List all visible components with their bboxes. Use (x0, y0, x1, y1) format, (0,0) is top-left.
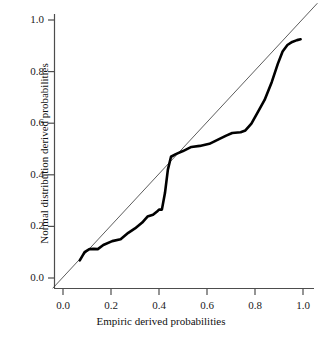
x-tick-label: 0.0 (43, 300, 83, 311)
x-tick-label: 0.6 (187, 300, 227, 311)
x-axis-title: Empiric derived probabilities (0, 316, 322, 327)
x-tick-label: 1.0 (283, 300, 322, 311)
x-tick-label: 0.2 (91, 300, 131, 311)
x-tick-label: 0.4 (139, 300, 179, 311)
x-tick-marks (63, 289, 303, 296)
reference-line-series (53, 3, 318, 288)
x-tick-label: 0.8 (235, 300, 275, 311)
pp-plot-figure: 0.00.20.40.60.81.0 0.00.20.40.60.81.0 Em… (0, 0, 322, 340)
pp-curve-series (80, 39, 301, 260)
y-axis-title: Normal distribution derived probabilitie… (39, 24, 50, 284)
